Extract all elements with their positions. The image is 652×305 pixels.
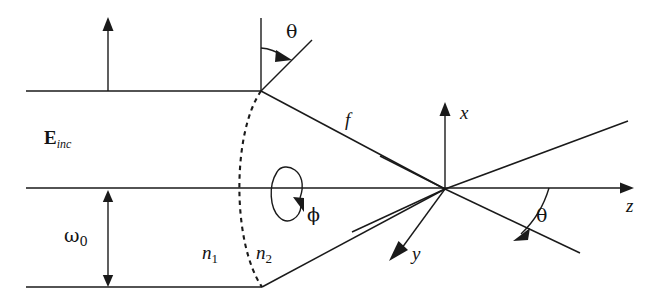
n2-symbol: n (256, 242, 266, 263)
converging-ray-bottom (262, 189, 445, 287)
theta-top-label: θ (286, 22, 297, 41)
focal-length-label: f (345, 110, 350, 129)
n2-label: n2 (256, 243, 272, 262)
omega0-arrowhead-bottom (103, 275, 113, 287)
diverging-ray-upper-left (380, 156, 445, 189)
diverging-ray-lower-right (445, 189, 580, 253)
diverging-ray-lower-left (352, 189, 445, 232)
z-axis-label: z (626, 196, 633, 215)
omega0-label: ω0 (64, 226, 88, 245)
z-axis-arrowhead (620, 183, 634, 194)
e-inc-label: Einc (44, 128, 71, 147)
phi-label: ϕ (307, 205, 320, 224)
phi-rotation-ellipse (271, 167, 302, 221)
e-inc-arrowhead (103, 17, 114, 31)
n2-subscript: 2 (266, 251, 273, 266)
omega0-arrowhead-top (103, 190, 113, 202)
y-axis-label: y (412, 244, 420, 263)
e-inc-subscript: inc (57, 137, 72, 151)
n1-symbol: n (202, 242, 212, 263)
theta-top-arc-arrowhead (275, 50, 292, 62)
diagram-vector-layer (0, 0, 652, 305)
theta-focus-label: θ (536, 206, 547, 225)
marginal-ray-direction-top (261, 40, 312, 91)
e-inc-symbol: E (44, 127, 57, 148)
diverging-ray-upper-right (445, 121, 628, 189)
y-axis-line (399, 189, 445, 252)
n1-subscript: 1 (212, 251, 219, 266)
omega0-subscript: 0 (80, 234, 88, 249)
omega0-symbol: ω (64, 224, 80, 246)
n1-label: n1 (202, 243, 218, 262)
figure-canvas: Einc θ f x y z θ ϕ ω0 n1 n2 (0, 0, 652, 305)
x-axis-label: x (460, 103, 468, 122)
phi-rotation-arrowhead (293, 197, 304, 212)
theta-focus-arc-arrowhead (513, 228, 530, 241)
x-axis-arrowhead (440, 102, 451, 116)
